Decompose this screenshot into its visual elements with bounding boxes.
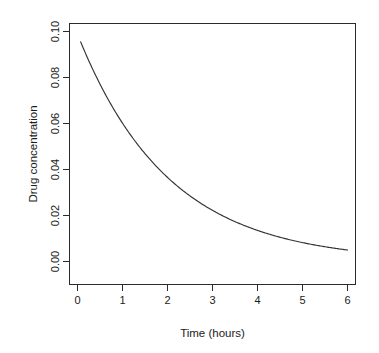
x-tick-label: 6 xyxy=(344,294,350,306)
x-tick-label: 5 xyxy=(299,294,305,306)
x-tick-label: 0 xyxy=(74,294,80,306)
x-tick-label: 3 xyxy=(209,294,215,306)
drug-concentration-line-chart: 0 1 2 3 4 5 6 0.00 0.02 0.04 0.06 0.08 0… xyxy=(0,0,379,353)
x-tick-label: 1 xyxy=(119,294,125,306)
y-tick-label: 0.06 xyxy=(49,113,61,134)
x-tick-label: 4 xyxy=(254,294,260,306)
x-tick-label: 2 xyxy=(164,294,170,306)
x-axis-title: Time (hours) xyxy=(180,327,245,339)
y-tick-label: 0.10 xyxy=(49,21,61,42)
y-tick-label: 0.04 xyxy=(49,159,61,180)
y-tick-label: 0.08 xyxy=(49,67,61,88)
y-axis-title: Drug concentration xyxy=(27,105,39,202)
y-tick-label: 0.00 xyxy=(49,251,61,272)
y-tick-label: 0.02 xyxy=(49,205,61,226)
chart-container: 0 1 2 3 4 5 6 0.00 0.02 0.04 0.06 0.08 0… xyxy=(0,0,379,353)
